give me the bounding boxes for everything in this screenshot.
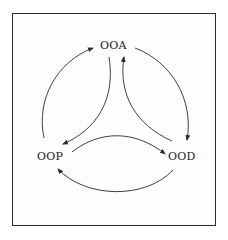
arrow-oop-to-ood xyxy=(72,136,165,154)
arrow-oop-to-ooa xyxy=(42,48,93,138)
cycle-arrows xyxy=(0,0,228,240)
node-oop: OOP xyxy=(37,150,63,163)
arrow-ood-to-ooa xyxy=(123,57,172,141)
node-ooa: OOA xyxy=(100,39,127,52)
node-ood: OOD xyxy=(168,150,195,163)
arrow-ooa-to-ood xyxy=(135,48,188,140)
arrow-ood-to-oop xyxy=(58,169,173,192)
arrow-ooa-to-oop xyxy=(63,57,110,144)
